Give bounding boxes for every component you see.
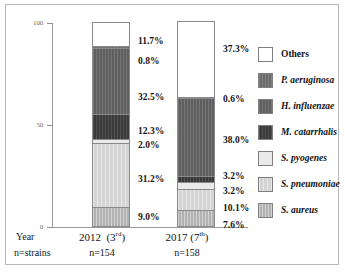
legend-label-others: Others — [281, 49, 309, 59]
row-header-n: n=strains — [14, 247, 51, 258]
data-label-m-catarrhalis-2012: 12.3% — [138, 126, 164, 136]
bar-2012[interactable] — [92, 22, 130, 227]
data-label-p-aeruginosa-2012: 0.8% — [138, 56, 159, 66]
segment-h-influenzae-2017[interactable] — [178, 99, 214, 177]
figure: 100 50 0 — [0, 0, 345, 276]
segment-m-catarrhalis-2012[interactable] — [93, 115, 129, 140]
data-label-s-aureus-2017: 7.6% — [223, 220, 244, 230]
legend-swatch-s-pneumoniae-icon — [258, 177, 273, 192]
legend-swatch-h-influenzae-icon — [258, 99, 273, 114]
legend-label-s-aureus: S. aureus — [281, 205, 318, 215]
legend-swatch-p-aeruginosa-icon — [258, 73, 273, 88]
legend-label-s-pneumoniae: S. pneumoniae — [281, 179, 340, 189]
category-year-2012: 2012 — [79, 231, 101, 243]
plot-area: 100 50 0 — [52, 23, 242, 228]
category-ordinal-2017: (7th) — [190, 231, 208, 243]
legend-swatch-others-icon — [258, 47, 273, 62]
data-label-s-pneumoniae-2012: 31.2% — [138, 174, 164, 184]
data-label-s-pyogenes-2012: 2.0% — [138, 140, 159, 150]
row-header-year: Year — [16, 231, 34, 242]
y-tick-100: 100 — [47, 23, 53, 24]
legend-item-p-aeruginosa[interactable]: P. aeruginosa — [258, 67, 340, 93]
y-tick-50: 50 — [47, 125, 53, 126]
y-tick-label-0: 0 — [40, 223, 43, 231]
segment-s-aureus-2017[interactable] — [178, 211, 214, 227]
legend-item-m-catarrhalis[interactable]: M. catarrhalis — [258, 119, 340, 145]
legend-item-s-pyogenes[interactable]: S. pyogenes — [258, 145, 340, 171]
category-label-2017: 2017 (7th) — [149, 230, 225, 243]
legend-item-others[interactable]: Others — [258, 41, 340, 67]
legend-label-h-influenzae: H. influenzae — [281, 101, 334, 111]
y-tick-0: 0 — [47, 227, 53, 228]
segment-others-2017[interactable] — [178, 22, 214, 98]
segment-others-2012[interactable] — [93, 23, 129, 47]
data-label-s-pneumoniae-2017: 10.1% — [223, 203, 249, 213]
category-label-2012: 2012 (3rd) — [64, 230, 140, 243]
legend-swatch-s-aureus-icon — [258, 203, 273, 218]
y-tick-label-50: 50 — [36, 121, 43, 129]
data-label-p-aeruginosa-2017: 0.6% — [223, 94, 244, 104]
segment-h-influenzae-2012[interactable] — [93, 49, 129, 115]
bar-2017[interactable] — [177, 21, 215, 227]
sample-size-2012: n=154 — [64, 247, 140, 258]
legend: Others P. aeruginosa H. influenzae M. ca… — [258, 41, 340, 223]
data-label-h-influenzae-2012: 32.5% — [138, 92, 164, 102]
segment-s-pneumoniae-2017[interactable] — [178, 190, 214, 211]
legend-label-s-pyogenes: S. pyogenes — [281, 153, 327, 163]
data-label-s-aureus-2012: 9.0% — [138, 212, 159, 222]
sample-size-2017: n=158 — [149, 247, 225, 258]
figure-frame: 100 50 0 — [5, 4, 339, 265]
data-label-s-pyogenes-2017: 3.2% — [223, 186, 244, 196]
data-label-others-2012: 11.7% — [138, 36, 164, 46]
legend-item-h-influenzae[interactable]: H. influenzae — [258, 93, 340, 119]
legend-item-s-pneumoniae[interactable]: S. pneumoniae — [258, 171, 340, 197]
y-tick-label-100: 100 — [33, 19, 43, 27]
data-label-m-catarrhalis-2017: 3.2% — [223, 171, 244, 181]
segment-s-pneumoniae-2012[interactable] — [93, 144, 129, 208]
category-year-2017: 2017 — [165, 231, 187, 243]
legend-label-p-aeruginosa: P. aeruginosa — [281, 75, 334, 85]
legend-item-s-aureus[interactable]: S. aureus — [258, 197, 340, 223]
category-ordinal-2012: (3rd) — [104, 231, 125, 243]
legend-swatch-s-pyogenes-icon — [258, 151, 273, 166]
data-label-others-2017: 37.3% — [223, 44, 249, 54]
legend-swatch-m-catarrhalis-icon — [258, 125, 273, 140]
segment-s-aureus-2012[interactable] — [93, 208, 129, 226]
data-label-h-influenzae-2017: 38.0% — [223, 135, 249, 145]
x-axis-line — [52, 227, 248, 228]
legend-label-m-catarrhalis: M. catarrhalis — [281, 127, 337, 137]
